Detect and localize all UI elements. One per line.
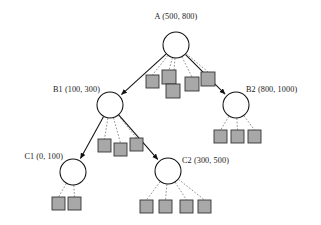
leaf-block — [162, 70, 176, 84]
node-circle-a — [163, 32, 189, 58]
leaf-connector — [169, 58, 172, 70]
edge-a-to-b1 — [121, 54, 166, 94]
leaf-block — [146, 75, 159, 88]
leaf-connector — [221, 116, 229, 130]
leaf-connector — [118, 115, 136, 138]
leaf-block — [180, 200, 193, 213]
leaf-connector — [147, 182, 161, 200]
leaf-block — [231, 130, 244, 143]
leaf-connector — [74, 185, 75, 197]
leaf-block — [130, 138, 143, 151]
node-label-c1: C1 (0, 100) — [24, 152, 63, 161]
tree-diagram-canvas: A (500, 800)B1 (100, 300)B2 (800, 1000)C… — [0, 0, 321, 225]
leaf-connector — [244, 116, 255, 130]
leaf-block — [166, 84, 180, 98]
leaf-block — [159, 200, 172, 213]
leaf-block — [198, 200, 211, 213]
tree-diagram: A (500, 800)B1 (100, 300)B2 (800, 1000)C… — [0, 0, 321, 225]
leaf-connector — [178, 179, 204, 200]
leaf-block — [248, 130, 261, 143]
node-label-a: A (500, 800) — [155, 12, 198, 21]
leaf-connector — [166, 184, 167, 200]
leaf-connector — [175, 182, 186, 200]
node-circle-c2 — [155, 158, 181, 184]
node-circle-b2 — [223, 92, 249, 118]
node-label-b1: B1 (100, 300) — [53, 85, 100, 94]
leaf-block — [52, 197, 65, 210]
leaf-block — [98, 139, 111, 152]
leaf-connector — [114, 118, 121, 143]
leaf-connector — [237, 118, 238, 130]
node-label-b2: B2 (800, 1000) — [246, 85, 297, 94]
node-label-c2: C2 (300, 500) — [182, 156, 229, 165]
leaf-connector — [59, 184, 67, 197]
leaf-block — [140, 200, 153, 213]
node-circle-c1 — [60, 159, 86, 185]
leaf-block — [201, 72, 215, 86]
leaf-block — [214, 130, 227, 143]
node-circle-b1 — [97, 92, 123, 118]
leaf-block — [114, 143, 127, 156]
leaf-block — [68, 197, 81, 210]
leaf-connector — [186, 54, 208, 72]
leaf-connector — [105, 118, 108, 139]
leaf-block — [185, 77, 199, 91]
